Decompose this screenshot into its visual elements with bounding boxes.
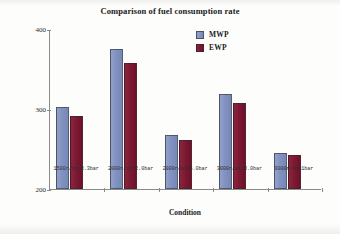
y-tick-label: 200 (36, 186, 47, 194)
x-tick-label: 3000r/min1bar (259, 166, 329, 172)
legend-swatch-mwp (196, 31, 204, 39)
chart-title: Comparison of fuel consumption rate (0, 6, 340, 16)
bar-mwp (219, 94, 232, 189)
legend-label-mwp: MWP (209, 30, 229, 39)
bar-ewp (233, 103, 246, 189)
bar-mwp (165, 135, 178, 189)
y-tick-mark (47, 190, 51, 191)
x-axis-label: Condition (49, 208, 321, 217)
chart-legend: MWP EWP (196, 28, 288, 54)
legend-label-ewp: EWP (209, 43, 227, 52)
bar-ewp (179, 140, 192, 189)
legend-swatch-ewp (196, 44, 204, 52)
legend-item-mwp: MWP (196, 28, 288, 41)
bar-ewp (70, 116, 83, 189)
bar-mwp (56, 107, 69, 189)
y-tick-label: 400 (36, 26, 47, 34)
chart-figure: Comparison of fuel consumption rate Fuel… (0, 0, 340, 234)
y-tick-label: 300 (36, 106, 47, 114)
bar-ewp (288, 155, 301, 189)
legend-item-ewp: EWP (196, 41, 288, 54)
x-tick-mark (322, 188, 323, 192)
